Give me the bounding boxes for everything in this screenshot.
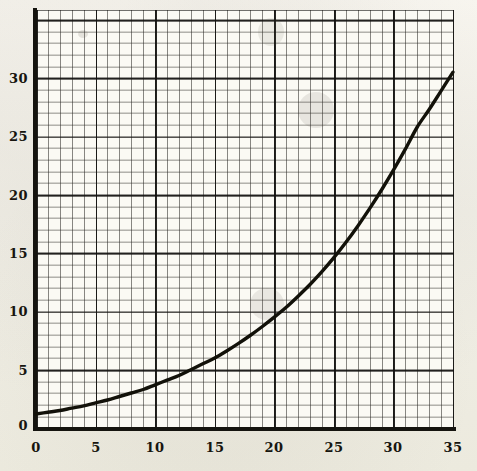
x-tick-label-5: 5 [79,440,113,455]
y-tick-label-15: 15 [0,246,28,261]
y-tick-label-20: 20 [0,188,28,203]
x-tick-label-10: 10 [138,440,172,455]
x-tick-label-15: 15 [198,440,232,455]
x-tick-label-20: 20 [257,440,291,455]
y-tick-label-5: 5 [0,363,28,378]
y-tick-label-10: 10 [0,304,28,319]
x-tick-label-25: 25 [317,440,351,455]
graph-figure: 30 25 20 15 10 5 0 0 5 10 15 20 25 30 35 [0,0,477,471]
x-tick-label-0: 0 [19,440,53,455]
data-curve-layer [0,0,477,471]
y-tick-label-0: 0 [0,418,28,433]
y-tick-label-25: 25 [0,129,28,144]
y-tick-label-30: 30 [0,71,28,86]
series-curve [36,72,453,414]
x-tick-label-30: 30 [376,440,410,455]
x-tick-label-35: 35 [436,440,470,455]
